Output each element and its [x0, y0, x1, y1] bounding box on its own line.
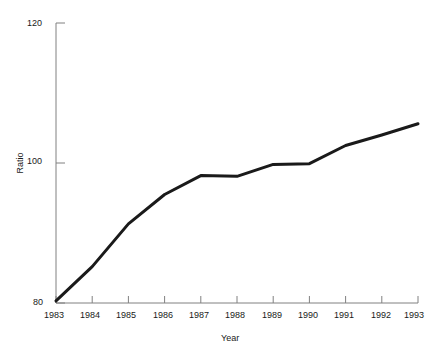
x-tick-label-1983: 1983	[44, 310, 64, 320]
x-tick-label-1985: 1985	[116, 310, 136, 320]
x-tick-label-1988: 1988	[225, 310, 245, 320]
x-tick-label-1992: 1992	[371, 310, 391, 320]
y-axis-title: Ratio	[15, 138, 25, 188]
x-tick-label-1987: 1987	[189, 310, 209, 320]
y-tick-label-80: 80	[33, 297, 43, 307]
x-axis-title: Year	[221, 333, 239, 343]
chart-axes	[56, 23, 418, 303]
x-tick-label-1990: 1990	[298, 310, 318, 320]
x-tick-label-1991: 1991	[334, 310, 354, 320]
x-tick-label-1989: 1989	[262, 310, 282, 320]
chart-figure: 120 100 80 Ratio 1983 1984 1985 1986 198…	[0, 0, 436, 353]
line-chart-plot	[0, 0, 436, 353]
x-tick-label-1993: 1993	[404, 310, 424, 320]
x-tick-label-1984: 1984	[80, 310, 100, 320]
y-tick-label-120: 120	[27, 18, 42, 28]
data-series-line	[56, 124, 418, 301]
x-tick-label-1986: 1986	[153, 310, 173, 320]
y-tick-label-100: 100	[27, 156, 42, 166]
